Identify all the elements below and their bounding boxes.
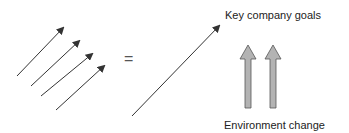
parallel-arrow-4 bbox=[56, 66, 104, 110]
environment-change-label: Environment change bbox=[224, 119, 325, 131]
block-arrows-group bbox=[240, 45, 281, 108]
parallel-arrow-3 bbox=[41, 54, 92, 96]
parallel-arrow-2 bbox=[31, 41, 79, 86]
key-company-goals-label: Key company goals bbox=[225, 9, 321, 21]
parallel-arrow-1 bbox=[17, 28, 63, 76]
block-arrow-up-1 bbox=[240, 45, 256, 108]
parallel-arrows-group bbox=[17, 28, 104, 110]
combined-arrow bbox=[132, 26, 219, 116]
equals-sign: = bbox=[124, 50, 133, 68]
block-arrow-up-2 bbox=[265, 45, 281, 108]
